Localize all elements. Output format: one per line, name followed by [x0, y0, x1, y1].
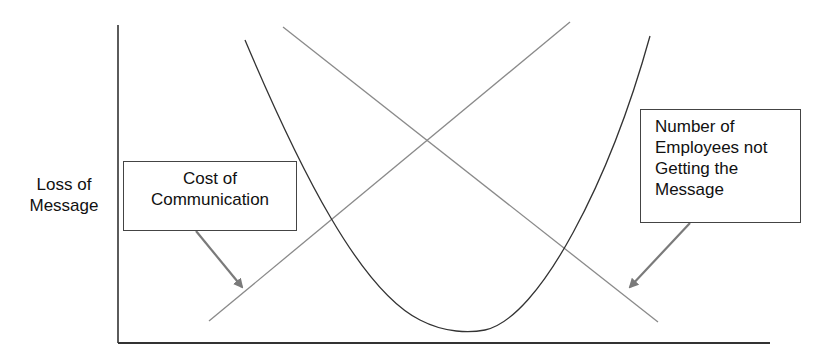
y-axis-label-line: Loss of	[14, 174, 114, 195]
cost-of-communication-callout: Cost of Communication	[123, 161, 297, 231]
y-axis-label-line: Message	[14, 195, 114, 216]
callout-text: Message	[655, 179, 800, 200]
employees-not-getting-message-callout: Number of Employees not Getting the Mess…	[640, 109, 801, 223]
y-axis-label: Loss of Message	[14, 174, 114, 216]
employees-callout-arrow	[630, 223, 690, 287]
cost-callout-arrow	[196, 231, 242, 287]
callout-text: Employees not	[655, 137, 800, 158]
loss-of-message-curve	[245, 36, 650, 332]
callout-text: Communication	[124, 189, 296, 210]
callout-text: Number of	[655, 116, 800, 137]
callout-text: Getting the	[655, 158, 800, 179]
callout-text: Cost of	[124, 168, 296, 189]
